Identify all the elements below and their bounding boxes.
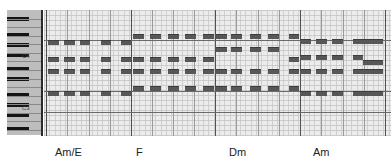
- midi-note[interactable]: [231, 69, 242, 74]
- midi-note[interactable]: [80, 57, 90, 62]
- midi-note[interactable]: [250, 34, 261, 39]
- white-key-edge: [7, 96, 41, 97]
- midi-note[interactable]: [101, 40, 111, 45]
- midi-note[interactable]: [185, 69, 196, 74]
- midi-note[interactable]: [150, 34, 161, 39]
- midi-note[interactable]: [101, 69, 111, 74]
- midi-note[interactable]: [316, 69, 327, 74]
- midi-note[interactable]: [353, 39, 363, 44]
- midi-note[interactable]: [373, 60, 383, 65]
- midi-note[interactable]: [268, 34, 279, 39]
- white-key-edge: [7, 130, 41, 131]
- white-key-edge: [7, 87, 41, 88]
- piano-roll-editor[interactable]: C4C3: [0, 0, 391, 140]
- bar-line: [385, 10, 386, 136]
- midi-note[interactable]: [133, 57, 144, 62]
- midi-note[interactable]: [168, 86, 179, 91]
- midi-note[interactable]: [203, 34, 214, 39]
- midi-note[interactable]: [289, 57, 299, 62]
- midi-note[interactable]: [250, 86, 261, 91]
- midi-note[interactable]: [353, 55, 363, 60]
- midi-note[interactable]: [150, 86, 161, 91]
- midi-note[interactable]: [80, 91, 90, 96]
- midi-note[interactable]: [64, 69, 75, 74]
- midi-note[interactable]: [64, 91, 75, 96]
- midi-note[interactable]: [121, 69, 131, 74]
- midi-note[interactable]: [185, 34, 196, 39]
- midi-note[interactable]: [300, 69, 311, 74]
- midi-note[interactable]: [353, 69, 363, 74]
- midi-note[interactable]: [168, 34, 179, 39]
- midi-note[interactable]: [250, 47, 261, 52]
- midi-note[interactable]: [363, 60, 373, 65]
- midi-note[interactable]: [64, 40, 75, 45]
- midi-note[interactable]: [332, 69, 343, 74]
- midi-note[interactable]: [101, 91, 111, 96]
- midi-note[interactable]: [373, 39, 383, 44]
- midi-note[interactable]: [168, 57, 179, 62]
- midi-note[interactable]: [268, 69, 279, 74]
- midi-note[interactable]: [64, 57, 75, 62]
- octave-label: C3: [22, 105, 30, 111]
- midi-note[interactable]: [316, 91, 327, 96]
- midi-note[interactable]: [121, 57, 131, 62]
- midi-note[interactable]: [300, 55, 311, 60]
- midi-note[interactable]: [363, 39, 373, 44]
- midi-note[interactable]: [332, 55, 343, 60]
- midi-note[interactable]: [203, 57, 214, 62]
- midi-note[interactable]: [48, 69, 59, 74]
- midi-note[interactable]: [133, 34, 144, 39]
- midi-note[interactable]: [80, 69, 90, 74]
- midi-note[interactable]: [133, 69, 144, 74]
- white-key-edge: [7, 121, 41, 122]
- midi-note[interactable]: [316, 55, 327, 60]
- midi-note[interactable]: [150, 57, 161, 62]
- midi-note[interactable]: [268, 47, 279, 52]
- midi-note[interactable]: [250, 69, 261, 74]
- midi-note[interactable]: [373, 69, 383, 74]
- midi-note[interactable]: [216, 47, 227, 52]
- midi-note[interactable]: [185, 86, 196, 91]
- midi-note[interactable]: [231, 47, 242, 52]
- white-key-edge: [7, 70, 41, 71]
- midi-note[interactable]: [373, 91, 383, 96]
- midi-note[interactable]: [289, 86, 299, 91]
- midi-note[interactable]: [363, 69, 373, 74]
- midi-note[interactable]: [353, 91, 363, 96]
- bar-line: [46, 10, 47, 136]
- white-key-edge: [7, 61, 41, 62]
- midi-note[interactable]: [289, 69, 299, 74]
- midi-note[interactable]: [332, 91, 343, 96]
- midi-note[interactable]: [300, 91, 311, 96]
- octave-label: C4: [22, 53, 30, 59]
- white-key-edge: [7, 19, 41, 20]
- midi-note[interactable]: [168, 69, 179, 74]
- midi-note[interactable]: [48, 91, 59, 96]
- midi-note[interactable]: [231, 86, 242, 91]
- midi-note[interactable]: [216, 69, 227, 74]
- midi-note[interactable]: [80, 40, 90, 45]
- midi-note[interactable]: [150, 69, 161, 74]
- midi-note[interactable]: [121, 91, 131, 96]
- midi-note[interactable]: [231, 34, 242, 39]
- midi-note[interactable]: [216, 86, 227, 91]
- white-key-edge: [7, 79, 41, 80]
- midi-note[interactable]: [203, 86, 214, 91]
- midi-note[interactable]: [185, 57, 196, 62]
- bar-line: [131, 10, 132, 136]
- midi-note[interactable]: [316, 39, 327, 44]
- midi-note[interactable]: [133, 86, 144, 91]
- midi-note[interactable]: [268, 86, 279, 91]
- midi-note[interactable]: [216, 34, 227, 39]
- midi-note[interactable]: [101, 57, 111, 62]
- midi-note[interactable]: [48, 57, 59, 62]
- white-key-edge: [7, 36, 41, 37]
- piano-keyboard[interactable]: C4C3: [7, 10, 41, 135]
- midi-note[interactable]: [121, 40, 131, 45]
- midi-note[interactable]: [332, 39, 343, 44]
- midi-note[interactable]: [203, 69, 214, 74]
- midi-note[interactable]: [363, 91, 373, 96]
- midi-note[interactable]: [289, 34, 299, 39]
- midi-note[interactable]: [300, 39, 311, 44]
- midi-note[interactable]: [48, 40, 59, 45]
